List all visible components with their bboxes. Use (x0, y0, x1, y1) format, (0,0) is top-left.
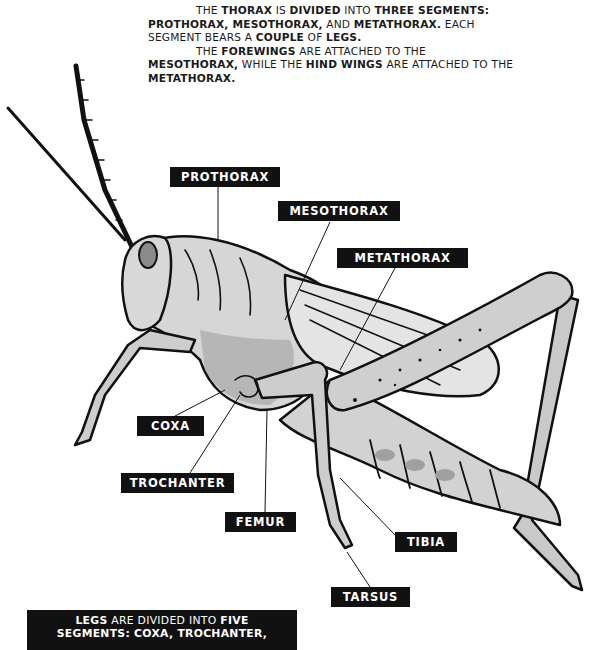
label-metathorax: METATHORAX (337, 248, 468, 268)
label-trochanter: TROCHANTER (121, 473, 234, 493)
label-prothorax: PROTHORAX (170, 167, 280, 187)
compound-eye (139, 242, 157, 268)
hind-tibia (514, 295, 582, 590)
label-tarsus: TARSUS (331, 587, 410, 607)
label-femur: FEMUR (225, 512, 296, 532)
label-mesothorax: MESOTHORAX (278, 201, 400, 221)
antenna-right (76, 66, 132, 247)
label-tibia: TIBIA (395, 532, 457, 552)
label-coxa: COXA (137, 416, 204, 436)
legs-note-box: LEGS ARE DIVIDED INTO FIVESEGMENTS: COXA… (27, 610, 297, 650)
antenna-left (8, 108, 125, 240)
